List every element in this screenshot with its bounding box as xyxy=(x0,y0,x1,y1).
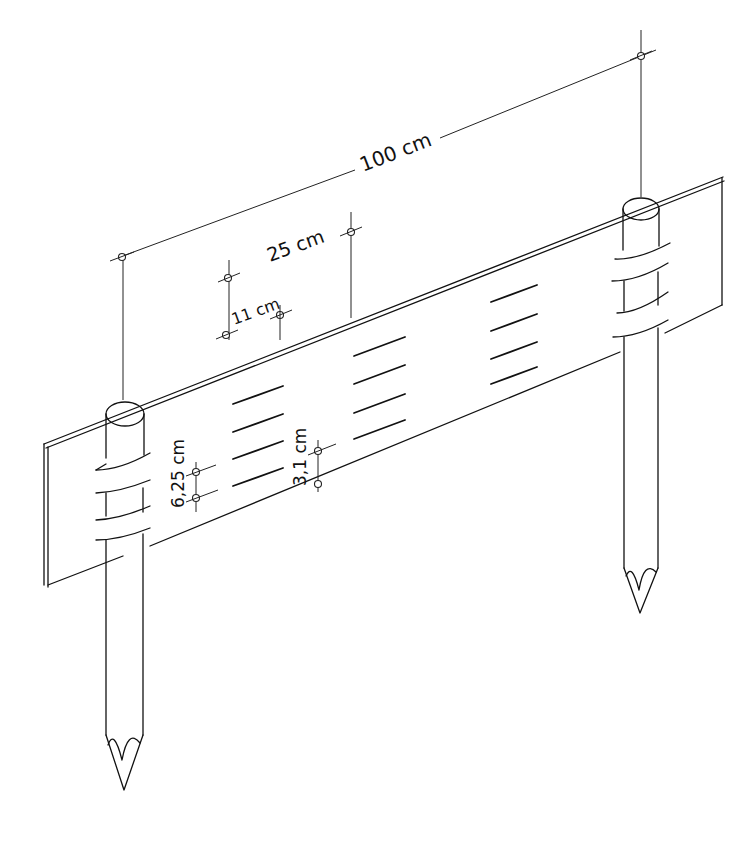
label-3-1cm: 3,1 cm xyxy=(290,428,310,486)
left-stake xyxy=(96,258,150,790)
dimension-6-25cm xyxy=(186,462,218,512)
right-stake xyxy=(612,30,670,613)
label-6-25cm: 6,25 cm xyxy=(168,439,188,508)
board xyxy=(44,177,724,587)
diagram-canvas: 100 cm 25 cm 11 cm 6,25 cm 3,1 cm xyxy=(0,0,755,849)
label-25cm: 25 cm xyxy=(264,225,327,266)
label-100cm: 100 cm xyxy=(356,127,435,176)
board-stake-drawing: 100 cm 25 cm 11 cm 6,25 cm 3,1 cm xyxy=(0,0,755,849)
dimension-3-1cm xyxy=(308,440,336,492)
label-11cm: 11 cm xyxy=(229,294,282,329)
